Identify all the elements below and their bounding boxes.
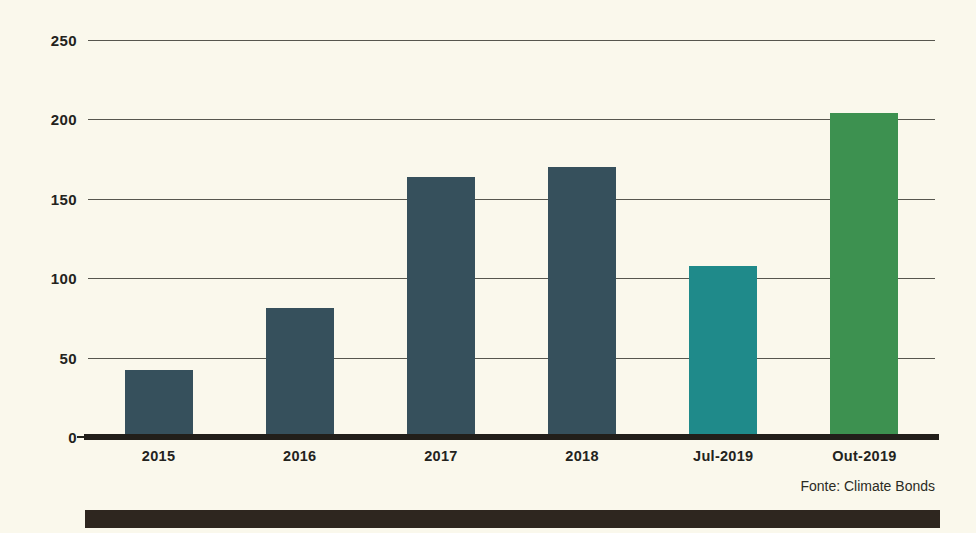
y-axis-tick-label: 0	[68, 429, 77, 446]
y-axis-tick-label: 50	[60, 349, 78, 366]
x-axis-tick-label: 2015	[142, 448, 175, 464]
x-axis-tick-label: 2016	[283, 448, 316, 464]
source-note: Fonte: Climate Bonds	[800, 478, 935, 494]
y-axis-tick-label: 100	[51, 270, 77, 287]
bar-out-2019	[830, 113, 898, 437]
x-axis-tick-label: Jul-2019	[693, 448, 753, 464]
gridline	[88, 40, 935, 41]
plot-area: 050100150200250	[88, 40, 935, 437]
x-axis-tick-label: Out-2019	[832, 448, 896, 464]
y-axis-tick-label: 200	[51, 111, 77, 128]
y-axis-tick-label: 150	[51, 190, 77, 207]
gridline	[88, 119, 935, 120]
bar-2017	[407, 177, 475, 437]
x-axis-tick-label: 2017	[424, 448, 457, 464]
gridline	[88, 358, 935, 359]
decorative-bottom-bar	[85, 510, 940, 528]
bar-jul-2019	[689, 266, 757, 438]
gridline	[88, 278, 935, 279]
bar-2018	[548, 167, 616, 437]
x-axis-tick-label: 2018	[565, 448, 598, 464]
bar-2016	[266, 308, 334, 437]
bar-2015	[125, 370, 193, 437]
bar-chart-figure: 050100150200250 2015201620172018Jul-2019…	[0, 0, 976, 533]
x-axis-baseline	[84, 434, 939, 440]
gridline	[88, 199, 935, 200]
y-axis-tick-label: 250	[51, 32, 77, 49]
